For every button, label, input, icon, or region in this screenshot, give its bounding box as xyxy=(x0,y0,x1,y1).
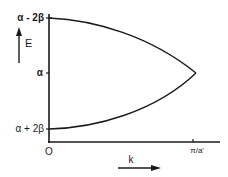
energy-arrow-icon xyxy=(16,27,22,36)
y-tick-label-bottom: α + 2β xyxy=(16,123,45,134)
y-tick-label-top: α - 2β xyxy=(17,12,44,23)
lower-band-curve xyxy=(49,73,196,129)
x-axis-label: k xyxy=(129,154,135,165)
x-origin-label: O xyxy=(45,146,53,157)
y-axis-label: E xyxy=(25,37,32,49)
band-diagram: α - 2β α α + 2β E O π/a' k xyxy=(0,0,228,177)
x-tick-label-end: π/a' xyxy=(190,146,204,155)
k-arrow-icon xyxy=(151,165,161,171)
y-tick-label-middle: α xyxy=(37,67,44,78)
upper-band-curve xyxy=(49,18,196,73)
